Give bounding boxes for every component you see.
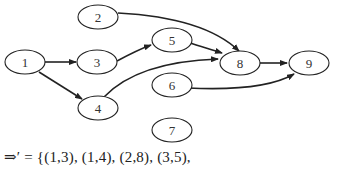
node-9: 9 bbox=[289, 51, 329, 75]
svg-text:2: 2 bbox=[95, 10, 102, 25]
node-8: 8 bbox=[220, 51, 260, 75]
node-2: 2 bbox=[78, 5, 118, 29]
svg-text:5: 5 bbox=[169, 33, 176, 48]
node-7: 7 bbox=[152, 118, 192, 142]
edge-6-9 bbox=[188, 74, 294, 89]
svg-text:7: 7 bbox=[169, 123, 176, 138]
svg-text:3: 3 bbox=[94, 55, 101, 70]
svg-text:8: 8 bbox=[237, 56, 244, 71]
node-6: 6 bbox=[152, 73, 192, 97]
edge-set-formula: ⇒′ = {(1,3), (1,4), (2,8), (3,5), bbox=[4, 148, 191, 166]
directed-graph: 1 2 3 4 5 6 7 8 9 bbox=[0, 0, 339, 171]
node-4: 4 bbox=[78, 96, 118, 120]
svg-text:9: 9 bbox=[306, 56, 313, 71]
node-5: 5 bbox=[152, 28, 192, 52]
svg-text:6: 6 bbox=[169, 78, 176, 93]
node-3: 3 bbox=[77, 50, 117, 74]
svg-text:4: 4 bbox=[95, 101, 102, 116]
edge-1-4 bbox=[39, 72, 82, 99]
svg-text:1: 1 bbox=[22, 55, 29, 70]
node-1: 1 bbox=[5, 50, 45, 74]
edge-3-5 bbox=[117, 45, 151, 61]
edge-5-8 bbox=[190, 43, 222, 53]
